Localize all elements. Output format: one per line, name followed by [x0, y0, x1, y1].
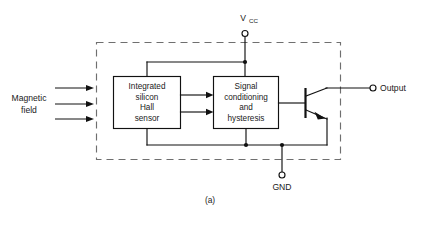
block-hall-sensor-line-2: silicon: [136, 93, 159, 102]
block-hall-sensor-line-1: Integrated: [129, 82, 166, 91]
gnd-label: GND: [272, 182, 291, 192]
block-signal-conditioning-line-2: conditioning: [224, 93, 268, 102]
magnetic-field-arrow-bottom: [55, 116, 94, 122]
vcc-terminal-circle[interactable]: [242, 31, 248, 37]
interblock-signal-arrow-upper: [181, 92, 214, 98]
block-signal-conditioning-line-3: and: [239, 103, 253, 112]
interblock-signal-arrow-lower: [181, 109, 214, 115]
magnetic-field-label-line-2: field: [21, 105, 37, 115]
output-label: Output: [380, 83, 406, 93]
block-signal-conditioning-line-1: Signal: [235, 82, 258, 91]
ground-junction-dot-signal-block: [244, 143, 248, 147]
output-terminal-circle[interactable]: [370, 85, 376, 91]
figure-caption: (a): [205, 195, 215, 205]
block-hall-sensor-line-4: sensor: [135, 114, 160, 123]
vcc-subscript-label: CC: [249, 17, 258, 24]
magnetic-field-arrow-middle: [55, 101, 94, 107]
vcc-junction-dot: [243, 60, 247, 64]
block-signal-conditioning-line-4: hysteresis: [228, 114, 265, 123]
block-diagram-canvas: V CC Integrated silicon Hall sensor Sign…: [0, 0, 433, 226]
hall-effect-sensor-figure: V CC Integrated silicon Hall sensor Sign…: [0, 0, 433, 226]
transistor-collector-lead: [306, 88, 327, 96]
magnetic-field-label-line-1: Magnetic: [12, 93, 48, 103]
magnetic-field-arrow-top: [55, 85, 94, 91]
vcc-label: V: [240, 13, 246, 23]
block-hall-sensor-line-3: Hall: [140, 103, 154, 112]
transistor-emitter-arrowhead: [315, 112, 326, 120]
gnd-terminal-circle[interactable]: [279, 172, 285, 178]
